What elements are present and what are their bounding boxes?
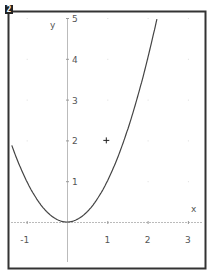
svg-text:2: 2 — [72, 136, 78, 146]
x-axis-label: x — [191, 204, 197, 214]
svg-text:5: 5 — [72, 14, 78, 24]
svg-text:1: 1 — [104, 235, 110, 245]
window-badge: 2 — [5, 5, 13, 14]
svg-text:2: 2 — [145, 235, 151, 245]
graph-canvas[interactable]: -112312345 x y — [0, 0, 213, 276]
cross-marker[interactable] — [103, 137, 109, 143]
svg-text:4: 4 — [72, 55, 78, 65]
grid-dots — [27, 18, 189, 182]
svg-text:1: 1 — [72, 177, 78, 187]
axis-ticks — [27, 19, 188, 225]
svg-text:-1: -1 — [20, 235, 29, 245]
parabola-curve — [12, 19, 157, 222]
svg-text:3: 3 — [72, 96, 78, 106]
y-axis-label: y — [50, 20, 56, 30]
svg-text:3: 3 — [185, 235, 191, 245]
